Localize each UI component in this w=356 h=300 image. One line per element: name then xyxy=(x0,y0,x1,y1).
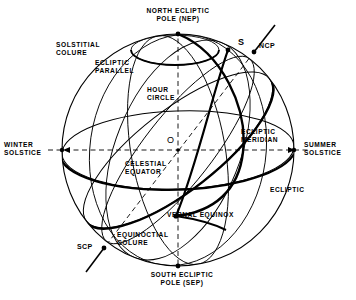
label-star-s: S xyxy=(238,38,244,46)
label-ecliptic: ECLIPTIC xyxy=(270,186,304,194)
label-vernal-equinox: VERNAL EQUINOX xyxy=(167,211,234,219)
label-north-ecliptic-pole: NORTH ECLIPTIC POLE (NEP) xyxy=(146,7,209,23)
point-nep xyxy=(176,32,181,37)
point-ncp xyxy=(252,50,257,55)
point-winter-solstice xyxy=(60,148,64,152)
point-summer-solstice xyxy=(292,148,296,152)
label-scp: SCP xyxy=(77,243,93,251)
label-ecliptic-meridian: ECLIPTIC MERIDIAN xyxy=(241,128,278,144)
ecliptic-front-arc xyxy=(60,146,294,190)
hour-circle-front xyxy=(176,50,228,216)
label-celestial-equator: CELESTIAL EQUATOR xyxy=(125,160,167,176)
label-equinoctial-colure: EQUINOCTIAL COLURE xyxy=(117,231,168,247)
point-star-s xyxy=(226,48,231,53)
label-ncp: NCP xyxy=(259,42,275,50)
label-origin-o: O xyxy=(167,136,174,144)
label-solstitial-colure: SOLSTITIAL COLURE xyxy=(56,41,100,57)
label-hour-circle: HOUR CIRCLE xyxy=(147,86,175,102)
label-summer-solstice: SUMMER SOLSTICE xyxy=(304,141,341,157)
label-winter-solstice: WINTER SOLSTICE xyxy=(4,141,41,157)
sphere-drawing xyxy=(0,0,356,300)
polar-axis-stub-scp xyxy=(86,248,104,272)
label-ecliptic-parallel: ECLIPTIC PARALLEL xyxy=(95,59,134,75)
point-sep xyxy=(176,264,181,269)
point-scp xyxy=(102,246,107,251)
label-south-ecliptic-pole: SOUTH ECLIPTIC POLE (SEP) xyxy=(151,271,214,287)
point-origin-o xyxy=(176,148,180,152)
celestial-sphere-diagram: NORTH ECLIPTIC POLE (NEP) SOLSTITIAL COL… xyxy=(0,0,356,300)
